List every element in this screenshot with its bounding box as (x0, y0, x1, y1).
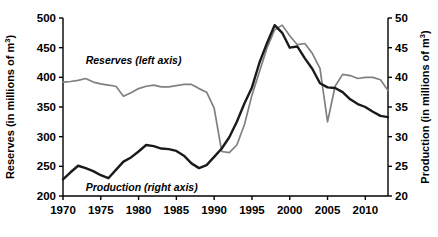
left-axis-tick-label: 250 (37, 160, 56, 172)
x-axis-tick-label: 1990 (201, 204, 227, 216)
right-axis-title: Production (in millions of m3) (418, 30, 431, 184)
x-axis-tick-label: 1980 (126, 204, 152, 216)
left-axis-tick-label: 350 (37, 101, 56, 113)
reserves-series-label: Reserves (left axis) (86, 54, 182, 66)
left-axis-tick-label: 300 (37, 131, 56, 143)
reserves-line (63, 25, 388, 153)
right-axis-tick-label: 25 (395, 160, 408, 172)
left-axis-tick-label: 200 (37, 190, 56, 202)
production-line (63, 25, 388, 179)
svg-text:Reserves (in millions of m3): Reserves (in millions of m3) (3, 35, 16, 180)
series-layer (63, 25, 388, 179)
x-axis-tick-label: 1985 (164, 204, 190, 216)
right-axis-tick-label: 30 (395, 131, 408, 143)
left-axis-title: Reserves (in millions of m3) (3, 35, 16, 180)
right-axis-tick-label: 50 (395, 12, 408, 24)
x-axis-tick-label: 1970 (50, 204, 76, 216)
production-series-label: Production (right axis) (86, 181, 199, 193)
line-chart: 2002503003504004505002025303540455019701… (0, 0, 438, 237)
svg-text:Production (in millions of m3): Production (in millions of m3) (418, 30, 431, 184)
axes-layer (59, 18, 392, 200)
left-axis-tick-label: 400 (37, 71, 56, 83)
x-axis-tick-label: 1995 (239, 204, 265, 216)
left-axis-tick-label: 500 (37, 12, 56, 24)
x-axis-tick-label: 2005 (315, 204, 341, 216)
left-axis-tick-label: 450 (37, 42, 56, 54)
right-axis-tick-label: 20 (395, 190, 408, 202)
chart-container: 2002503003504004505002025303540455019701… (0, 0, 438, 237)
labels-layer: 2002503003504004505002025303540455019701… (3, 12, 431, 216)
right-axis-tick-label: 40 (395, 71, 408, 83)
x-axis-tick-label: 2010 (353, 204, 379, 216)
x-axis-tick-label: 1975 (88, 204, 114, 216)
right-axis-tick-label: 35 (395, 101, 408, 113)
right-axis-tick-label: 45 (395, 42, 408, 54)
x-axis-tick-label: 2000 (277, 204, 303, 216)
